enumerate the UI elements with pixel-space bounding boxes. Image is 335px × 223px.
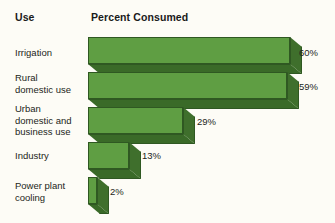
bar-industry bbox=[88, 142, 141, 179]
bar-value-label: 60% bbox=[299, 47, 318, 58]
category-label: Power plant cooling bbox=[15, 180, 89, 203]
category-label: Rural domestic use bbox=[15, 72, 89, 95]
bar-value-label: 2% bbox=[110, 186, 124, 197]
category-label: Urban domestic and business use bbox=[15, 103, 89, 138]
chart-figure: Use Percent Consumed Irrigation Rural do… bbox=[0, 0, 335, 223]
bar-power-plant-cooling bbox=[88, 177, 109, 214]
bar-front-face bbox=[88, 177, 97, 204]
column-header-percent-consumed: Percent Consumed bbox=[91, 11, 188, 23]
bar-value-label: 29% bbox=[197, 116, 216, 127]
bar-value-label: 59% bbox=[299, 81, 318, 92]
bar-front-face bbox=[88, 142, 129, 169]
bar-urban-domestic-and-business-use bbox=[88, 107, 195, 144]
bar-front-face bbox=[88, 72, 287, 99]
bar-irrigation bbox=[88, 37, 302, 74]
category-label: Industry bbox=[15, 150, 89, 162]
bar-value-label: 13% bbox=[142, 150, 161, 161]
category-label: Irrigation bbox=[15, 47, 89, 59]
bar-rural-domestic-use bbox=[88, 72, 299, 109]
bar-front-face bbox=[88, 37, 290, 64]
bar-front-face bbox=[88, 107, 183, 134]
column-header-use: Use bbox=[15, 11, 35, 23]
